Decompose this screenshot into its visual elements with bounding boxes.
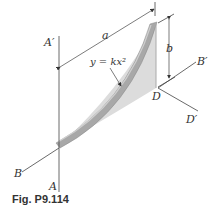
diagram-svg (0, 0, 221, 214)
label-b: b (166, 43, 173, 54)
label-d-prime: D′ (186, 114, 197, 125)
shaded-area (59, 24, 156, 146)
equation-leader (110, 68, 121, 86)
label-a-prime: A′ (44, 37, 54, 48)
label-a: a (102, 30, 109, 41)
equation-label: y = kx² (90, 57, 126, 67)
label-b-prime: B′ (197, 56, 208, 67)
axis-b (22, 148, 59, 172)
figure-caption: Fig. P9.114 (12, 194, 69, 205)
figure-canvas: a b y = kx² A′ A B B′ D D′ Fig. P9.114 (0, 0, 221, 214)
label-a: A (49, 181, 57, 192)
axis-d-d-prime (158, 88, 198, 111)
label-d: D (152, 91, 161, 102)
label-b-point: B (14, 168, 22, 179)
